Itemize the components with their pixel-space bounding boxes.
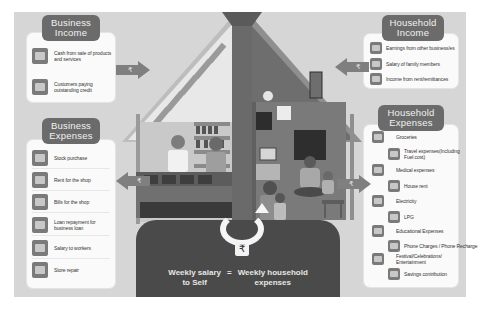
household-income-item: Earnings from other business/es	[370, 42, 455, 54]
formula-equals: =	[227, 268, 232, 288]
formula-right: Weekly household expenses	[238, 268, 308, 288]
divider	[32, 258, 110, 259]
item-line2: Entertainment	[396, 259, 426, 265]
item-label: Bills for the shop	[54, 199, 89, 205]
item-label: Festival/Celebrations/Entertainment	[396, 253, 442, 265]
income-arrow-right: ₹	[116, 61, 150, 79]
household-expense-item: House rent	[388, 180, 427, 192]
item-label: Cash from sale of productsand services	[54, 50, 111, 62]
cash-bundle-icon	[32, 240, 48, 256]
item-label: Loan repayment forbusiness loan	[54, 219, 96, 231]
cash-bundle-icon	[32, 48, 48, 64]
business-expense-item: Salary to workers	[32, 240, 91, 256]
rupee-icon: ₹	[349, 179, 353, 189]
grocery-basket-icon	[372, 131, 384, 143]
title-line2: Expenses	[382, 118, 440, 128]
item-line2: business loan	[54, 225, 83, 231]
formula-left: Weekly salary to Self	[168, 268, 221, 288]
tools-icon	[32, 262, 48, 278]
rupee-icon: ₹	[356, 62, 360, 72]
bank-icon	[32, 217, 48, 233]
checkmark-icon	[370, 42, 382, 54]
gas-cylinder-icon	[388, 211, 400, 223]
divider	[32, 190, 110, 191]
title-line2: Income	[386, 28, 440, 38]
shopping-bag-icon	[32, 150, 48, 166]
rupee-icon: ₹	[235, 242, 249, 256]
business-income-item: Cash from sale of productsand services	[32, 48, 114, 64]
money-hand-icon	[370, 58, 382, 70]
education-icon	[372, 225, 384, 237]
household-expense-item: Phone Charges / Phone Recharge	[388, 240, 477, 252]
rupee-icon: ₹	[137, 176, 141, 186]
cycle-arrow-icon	[220, 212, 264, 246]
formula-right-line2: expenses	[238, 278, 308, 288]
divider	[32, 212, 110, 213]
item-label: Rent for the shop	[54, 177, 91, 183]
household-expense-item: Festival/Celebrations/Entertainment	[372, 253, 442, 265]
item-line2: outstanding credit	[54, 87, 92, 93]
item-label: Earnings from other business/es	[386, 45, 455, 51]
item-line2: and services	[54, 56, 81, 62]
formula-left-line1: Weekly salary	[168, 268, 221, 278]
household-expense-item: Groceries	[372, 131, 417, 143]
household-income-item: Salary of family members	[370, 58, 440, 70]
household-income-title: Household Income	[382, 15, 444, 41]
household-expense-item: LPG	[388, 211, 414, 223]
business-expense-item: Store repair	[32, 262, 79, 278]
house-icon	[388, 180, 400, 192]
bill-icon	[32, 194, 48, 210]
business-income-item: Customers payingoutstanding credit	[32, 79, 114, 95]
household-expense-item: Savings contribution	[388, 268, 447, 280]
item-label: Store repair	[54, 267, 79, 273]
expense-arrow-right: ₹	[337, 175, 371, 193]
household-expenses-title: Household Expenses	[378, 105, 444, 131]
bus-icon	[388, 148, 400, 160]
income-arrow-left: ₹	[335, 58, 369, 76]
household-expense-item: Medical expenses	[372, 164, 434, 176]
phone-icon	[388, 240, 400, 252]
item-line2: Fuel cost)	[404, 154, 425, 160]
festival-icon	[372, 253, 384, 265]
item-label: LPG	[404, 214, 414, 220]
formula-left-line2: to Self	[168, 278, 221, 288]
handshake-icon	[370, 73, 382, 85]
item-label: Medical expenses	[396, 167, 434, 173]
item-label: Salary to workers	[54, 245, 91, 251]
business-expense-item: Rent for the shop	[32, 172, 91, 188]
electricity-icon	[372, 195, 384, 207]
business-expense-item: Stock purchase	[32, 150, 87, 166]
item-label: Phone Charges / Phone Recharge	[404, 243, 477, 249]
shop-icon	[32, 172, 48, 188]
item-label: Stock purchase	[54, 155, 87, 161]
item-label: House rent	[404, 183, 427, 189]
cycle-arrow-head-icon	[255, 203, 269, 213]
item-label: Savings contribution	[404, 271, 447, 277]
title-line2: Expenses	[46, 131, 96, 141]
medical-kit-icon	[372, 164, 384, 176]
item-label: Electricity	[396, 198, 416, 204]
business-expenses-title: Business Expenses	[42, 118, 100, 144]
salary-formula: Weekly salary to Self = Weekly household…	[136, 268, 340, 288]
title-line2: Income	[46, 28, 96, 38]
household-income-item: Income from rent/remittances	[370, 73, 448, 85]
item-label: Travel expenses(IncludingFuel cost)	[404, 148, 460, 160]
cash-bundle-icon	[32, 79, 48, 95]
household-expense-item: Educational Expenses	[372, 225, 443, 237]
business-expense-item: Bills for the shop	[32, 194, 89, 210]
divider	[32, 235, 110, 236]
household-expense-item: Electricity	[372, 195, 416, 207]
item-label: Educational Expenses	[396, 228, 443, 234]
piggy-bank-icon	[388, 268, 400, 280]
item-label: Salary of family members	[386, 61, 440, 67]
formula-right-line1: Weekly household	[238, 268, 308, 278]
item-label: Customers payingoutstanding credit	[54, 81, 93, 93]
item-label: Income from rent/remittances	[386, 76, 448, 82]
divider	[32, 168, 110, 169]
business-expense-item: Loan repayment forbusiness loan	[32, 217, 96, 233]
household-expense-item: Travel expenses(IncludingFuel cost)	[388, 148, 460, 160]
item-label: Groceries	[396, 134, 417, 140]
expense-arrow-left: ₹	[116, 172, 150, 190]
rupee-icon: ₹	[128, 65, 132, 75]
business-income-title: Business Income	[42, 15, 100, 41]
